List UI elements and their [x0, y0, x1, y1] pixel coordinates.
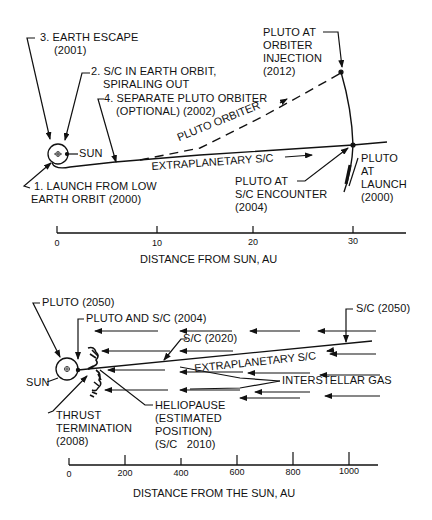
- label-line: PLUTO: [361, 152, 407, 165]
- label-line: THRUST: [56, 409, 132, 422]
- label-line: (2004): [235, 201, 327, 214]
- label-sc-2020: S/C (2020): [183, 332, 237, 345]
- label-pluto-sc-2004: PLUTO AND S/C (2004): [86, 312, 206, 325]
- top-axis-tick: 30: [348, 236, 358, 246]
- bottom-axis-tick: 400: [173, 468, 188, 478]
- label-line: EARTH ORBIT (2000): [31, 193, 157, 206]
- label-line: SPIRALING OUT: [91, 78, 216, 91]
- label-interstellar-gas: INTERSTELLAR GAS: [282, 374, 392, 387]
- label-line: HELIOPAUSE: [155, 399, 226, 412]
- top-axis-tick: 10: [152, 238, 162, 248]
- label-bottom-sun: SUN: [26, 376, 50, 389]
- label-line: (2000): [361, 191, 407, 204]
- label-earth-escape: 3. EARTH ESCAPE (2001): [40, 31, 139, 57]
- top-axis-title: DISTANCE FROM SUN, AU: [140, 253, 277, 266]
- label-sun: SUN: [79, 147, 103, 160]
- label-sc-2050: S/C (2050): [356, 302, 410, 315]
- label-line: 4. SEPARATE PLUTO ORBITER: [104, 92, 267, 105]
- bottom-axis-tick: 1000: [339, 466, 359, 476]
- label-line: S/C ENCOUNTER: [235, 188, 327, 201]
- top-axis-tick: 20: [248, 237, 258, 247]
- label-line: POSITION): [155, 425, 226, 438]
- label-thrust-termination: THRUST TERMINATION (2008): [56, 409, 132, 448]
- bottom-axis-tick: 0: [66, 469, 71, 479]
- top-axis-tick: 0: [54, 238, 59, 248]
- label-line: (2008): [56, 435, 132, 448]
- label-pluto-2050: PLUTO (2050): [42, 296, 115, 309]
- heliopause-shading: [88, 348, 101, 398]
- label-line: (2001): [40, 44, 139, 57]
- bottom-axis-tick: 800: [285, 467, 300, 477]
- label-line: LAUNCH: [361, 178, 407, 191]
- label-pluto-injection: PLUTO AT ORBITER INJECTION (2012): [263, 26, 322, 78]
- label-launch: 1. LAUNCH FROM LOW EARTH ORBIT (2000): [34, 180, 157, 206]
- label-line: 3. EARTH ESCAPE: [40, 31, 139, 44]
- label-line: INJECTION: [263, 52, 322, 65]
- label-line: PLUTO AT: [263, 26, 322, 39]
- label-line: (S/C 2010): [155, 438, 226, 451]
- label-line: TERMINATION: [56, 422, 132, 435]
- bottom-axis-tick: 200: [117, 468, 132, 478]
- label-line: (ESTIMATED: [155, 412, 226, 425]
- bottom-axis-title: DISTANCE FROM THE SUN, AU: [133, 487, 295, 500]
- label-line: AT: [361, 165, 407, 178]
- bottom-axis-tick: 600: [229, 467, 244, 477]
- label-pluto-encounter: PLUTO AT S/C ENCOUNTER (2004): [235, 175, 327, 214]
- label-line: 2. S/C IN EARTH ORBIT,: [91, 65, 216, 78]
- label-line: ORBITER: [263, 39, 322, 52]
- label-earth-orbit: 2. S/C IN EARTH ORBIT, SPIRALING OUT: [91, 65, 216, 91]
- label-pluto-launch: PLUTO AT LAUNCH (2000): [361, 152, 407, 204]
- label-heliopause: HELIOPAUSE (ESTIMATED POSITION) (S/C 201…: [155, 399, 226, 451]
- label-line: (2012): [263, 65, 322, 78]
- label-line: PLUTO AT: [235, 175, 327, 188]
- label-line: 1. LAUNCH FROM LOW: [34, 180, 157, 193]
